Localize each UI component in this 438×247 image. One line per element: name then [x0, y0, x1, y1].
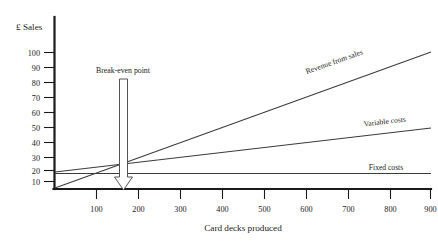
y-tick-label: 90: [32, 64, 40, 73]
y-tick-label: 20: [32, 167, 40, 176]
chart-canvas: 100 90 80 70 60 50 40 30 20 10 £ Sales: [0, 0, 438, 247]
y-tick-label: 30: [32, 154, 40, 163]
y-tick-label: 10: [32, 178, 40, 187]
y-tick-label: 100: [28, 49, 40, 58]
x-tick-label: 300: [174, 205, 186, 214]
x-axis-ticks: [97, 190, 431, 199]
x-tick-label: 500: [258, 205, 270, 214]
x-tick-label: 400: [216, 205, 228, 214]
variable-costs-line-label: Variable costs: [363, 115, 406, 129]
x-tick-label: 600: [300, 205, 312, 214]
x-axis-title: Card decks produced: [204, 223, 282, 233]
y-tick-label: 60: [32, 109, 40, 118]
x-axis-tick-labels: 100 200 300 400 500 600 700 800 900: [90, 205, 436, 214]
y-axis-ticks: [44, 53, 54, 182]
y-tick-label: 50: [32, 124, 40, 133]
y-tick-label: 40: [32, 139, 40, 148]
revenue-line-label: Revenue from sales: [304, 47, 363, 75]
x-tick-label: 100: [90, 205, 102, 214]
break-even-chart: 100 90 80 70 60 50 40 30 20 10 £ Sales: [0, 0, 438, 247]
x-tick-label: 700: [342, 205, 354, 214]
x-tick-label: 200: [132, 205, 144, 214]
y-tick-label: 80: [32, 79, 40, 88]
y-axis-title: £ Sales: [16, 22, 43, 32]
y-axis-tick-labels: 100 90 80 70 60 50 40 30 20 10: [28, 49, 40, 187]
x-tick-label: 900: [424, 205, 436, 214]
fixed-costs-line-label: Fixed costs: [369, 163, 403, 172]
y-tick-label: 70: [32, 94, 40, 103]
break-even-annotation-label: Break-even point: [96, 66, 151, 75]
x-tick-label: 800: [384, 205, 396, 214]
